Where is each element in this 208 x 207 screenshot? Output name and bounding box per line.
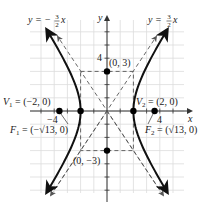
svg-text:2: 2 <box>167 21 171 29</box>
vertex-v1-label: V1 = (−2, 0) <box>3 96 51 109</box>
svg-text:F1 = (−√13, 0): F1 = (−√13, 0) <box>9 124 68 137</box>
vertex-v1-point <box>77 108 83 114</box>
svg-text:y = −: y = − <box>27 14 51 25</box>
hyperbola-left-branch-upper <box>47 30 80 111</box>
svg-text:x: x <box>60 14 66 25</box>
svg-text:F2 = (√13, 0): F2 = (√13, 0) <box>144 124 197 137</box>
y-axis-label: y <box>97 12 103 23</box>
covertex-bottom-label: (0, −3) <box>73 155 100 167</box>
svg-text:y =: y = <box>147 14 162 25</box>
focus-f2-label: F2 = (√13, 0) <box>144 124 197 137</box>
vertex-v2-point <box>130 108 136 114</box>
asymptote-label-left: y = − 3 2 x <box>27 13 66 29</box>
covertex-top-point <box>104 68 110 74</box>
f2-leader-line <box>148 114 153 124</box>
covertex-bottom-point <box>104 147 110 153</box>
svg-text:3: 3 <box>55 13 59 21</box>
svg-text:x: x <box>172 14 178 25</box>
f1-leader-line <box>61 114 68 124</box>
x-axis-label: x <box>187 113 193 124</box>
svg-text:V1 = (−2, 0): V1 = (−2, 0) <box>3 96 51 109</box>
svg-text:2: 2 <box>55 21 59 29</box>
y-tick-label-4: 4 <box>97 52 102 63</box>
focus-f1-label: F1 = (−√13, 0) <box>9 124 68 137</box>
svg-text:3: 3 <box>167 13 171 21</box>
covertex-top-label: (0, 3) <box>109 57 131 69</box>
hyperbola-diagram: y = − 3 2 x y = 3 2 x y x 4 4 −4 (0, 3) … <box>0 0 208 207</box>
